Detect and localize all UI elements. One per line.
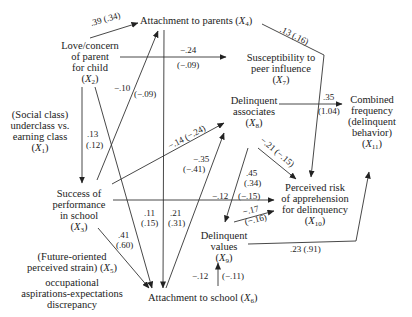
- node-x10-line-2: of apprehension: [274, 193, 356, 204]
- node-x2-line-3: for child: [56, 62, 124, 73]
- node-x9-delinquent-values: Delinquent values (X9): [196, 230, 252, 267]
- coef-x9-x11: .23 (.91): [290, 244, 321, 254]
- node-x4-label: Attachment to parents: [140, 15, 233, 26]
- node-x11-line-4: behavior): [344, 127, 400, 138]
- node-x7-susceptibility: Susceptibility to peer influence (X7): [228, 52, 334, 89]
- node-x1-line-3: earning class: [4, 131, 76, 142]
- node-x5-line-3: occupational: [16, 277, 128, 288]
- node-x8-line-1: Delinquent: [226, 95, 282, 106]
- coef-x2-x7-top: −.24: [180, 45, 196, 55]
- coef-x3-x10-top: −.12: [212, 191, 228, 201]
- node-x11-line-1: Combined: [344, 94, 400, 105]
- node-x9-line-1: Delinquent: [196, 230, 252, 241]
- coef-x3-x6-top: .41: [118, 230, 129, 240]
- node-x3-success-in-school: Success of performance in school (X3): [46, 188, 112, 236]
- coef-x8-x11-bottom: (1.04): [318, 106, 340, 116]
- coef-x1-x3-top: .13: [87, 129, 98, 139]
- coef-x3-x10-bottom: (−.15): [238, 191, 260, 201]
- node-x1-sub: 1: [41, 147, 45, 155]
- coef-x3-x6-bottom: (.60): [116, 240, 133, 250]
- coef-x4-x6-top: .21: [170, 208, 181, 218]
- node-x3-line-3: in school: [46, 210, 112, 221]
- coef-x8-x11-top: .35: [323, 92, 334, 102]
- node-x8-delinquent-associates: Delinquent associates (X8): [226, 95, 282, 132]
- node-x3-sub: 3: [80, 226, 84, 234]
- node-x5-line-4: aspirations-expectations: [16, 288, 128, 299]
- coef-x6-x8-bottom: (−.41): [183, 164, 205, 174]
- node-x11-line-3: (delinquent: [344, 116, 400, 127]
- node-x5-line-1: (Future-oriented: [16, 251, 128, 262]
- node-x7-sub: 7: [282, 79, 286, 87]
- node-x10-sub: 10: [315, 220, 322, 228]
- node-x9-line-2: values: [196, 241, 252, 252]
- coef-x6-x8-top: −.35: [193, 154, 209, 164]
- coef-x2-x6-bottom: (.15): [141, 218, 158, 228]
- node-x1-line-2: underclass vs.: [4, 120, 76, 131]
- coef-x6-x9-bottom: (−.11): [222, 271, 244, 281]
- coef-x8-x9-top: .45: [246, 168, 257, 178]
- node-x5-sub: 5: [110, 267, 114, 275]
- node-x2-sub: 2: [91, 78, 95, 86]
- node-x11-combined-frequency: Combined frequency (delinquent behavior)…: [344, 94, 400, 153]
- node-x11-sub: 11: [372, 143, 379, 151]
- coef-x3-x4-bottom: (−.09): [134, 89, 156, 99]
- node-x6-label: Attachment to school: [148, 292, 238, 303]
- node-x3-line-2: performance: [46, 199, 112, 210]
- node-x9-sub: 9: [225, 257, 229, 265]
- node-x6-sub: 6: [250, 297, 254, 305]
- node-x4-attachment-to-parents: Attachment to parents (X4): [140, 15, 252, 30]
- node-x3-line-1: Success of: [46, 188, 112, 199]
- node-x11-line-2: frequency: [344, 105, 400, 116]
- node-x5-line-5: discrepancy: [16, 299, 128, 310]
- node-x8-line-2: associates: [226, 106, 282, 117]
- coef-x6-x9-top: −.12: [192, 271, 208, 281]
- node-x6-attachment-to-school: Attachment to school (X6): [148, 292, 257, 307]
- edge-x4-x6: [163, 30, 164, 288]
- node-x5-line-2: perceived strain): [27, 262, 97, 273]
- node-x7-line-2: peer influence: [228, 63, 334, 74]
- coef-x1-x3-bottom: (.12): [86, 140, 103, 150]
- node-x2-love-concern: Love/concern of parent for child (X2): [56, 40, 124, 88]
- node-x4-sub: 4: [245, 20, 249, 28]
- path-diagram: Attachment to parents (X4) Love/concern …: [0, 0, 412, 317]
- coef-x4-x6-bottom: (.31): [168, 218, 185, 228]
- node-x1-line-1: (Social class): [4, 109, 76, 120]
- node-x5-perceived-strain: (Future-oriented perceived strain) (X5) …: [16, 251, 128, 310]
- node-x2-line-2: of parent: [56, 51, 124, 62]
- coef-x2-x6-top: .11: [144, 208, 155, 218]
- node-x8-sub: 8: [255, 122, 259, 130]
- coef-x8-x9-bottom: (.34): [244, 178, 261, 188]
- node-x7-line-1: Susceptibility to: [228, 52, 334, 63]
- node-x2-line-1: Love/concern: [56, 40, 124, 51]
- node-x10-line-1: Perceived risk: [274, 182, 356, 193]
- node-x1-social-class: (Social class) underclass vs. earning cl…: [4, 109, 76, 157]
- node-x10-line-3: for delinquency: [274, 204, 356, 215]
- coef-x3-x4-top: −.10: [114, 83, 130, 93]
- node-x10-perceived-risk: Perceived risk of apprehension for delin…: [274, 182, 356, 230]
- coef-x2-x7-bottom: (−.09): [177, 60, 199, 70]
